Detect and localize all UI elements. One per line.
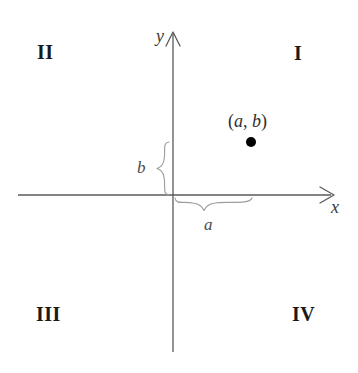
point-label-a: a	[234, 111, 243, 131]
quadrant-label-ii: II	[37, 42, 54, 62]
point-label-comma: ,	[243, 111, 248, 131]
point-label-b: b	[252, 111, 261, 131]
quadrant-label-iii: III	[36, 304, 61, 324]
x-axis-label: x	[331, 198, 339, 216]
point-label-close-paren: )	[261, 111, 267, 131]
measure-label-b: b	[137, 159, 146, 176]
quadrant-label-iv: IV	[292, 304, 315, 324]
quadrant-label-i: I	[294, 43, 302, 63]
a-brace	[175, 198, 252, 211]
y-axis-label: y	[156, 27, 164, 45]
plotted-point-dot	[246, 137, 256, 147]
coordinate-plane-figure: y x I II III IV (a, b) b a	[0, 0, 358, 373]
measure-label-a: a	[204, 216, 213, 233]
b-brace	[157, 142, 169, 195]
point-coordinate-label: (a, b)	[228, 112, 267, 130]
